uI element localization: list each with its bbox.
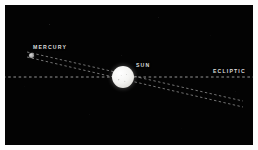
ecliptic-label: ECLIPTIC bbox=[213, 68, 246, 74]
mercury-orbit-lower-line bbox=[27, 57, 243, 107]
mercury-label: MERCURY bbox=[33, 44, 67, 50]
figure-container: MERCURY SUN ECLIPTIC bbox=[0, 0, 258, 150]
sun-label: SUN bbox=[136, 62, 150, 68]
mercury-orbit-upper-line bbox=[27, 52, 243, 101]
diagram-plate: MERCURY SUN ECLIPTIC bbox=[5, 5, 253, 145]
sun-disc bbox=[112, 66, 134, 88]
